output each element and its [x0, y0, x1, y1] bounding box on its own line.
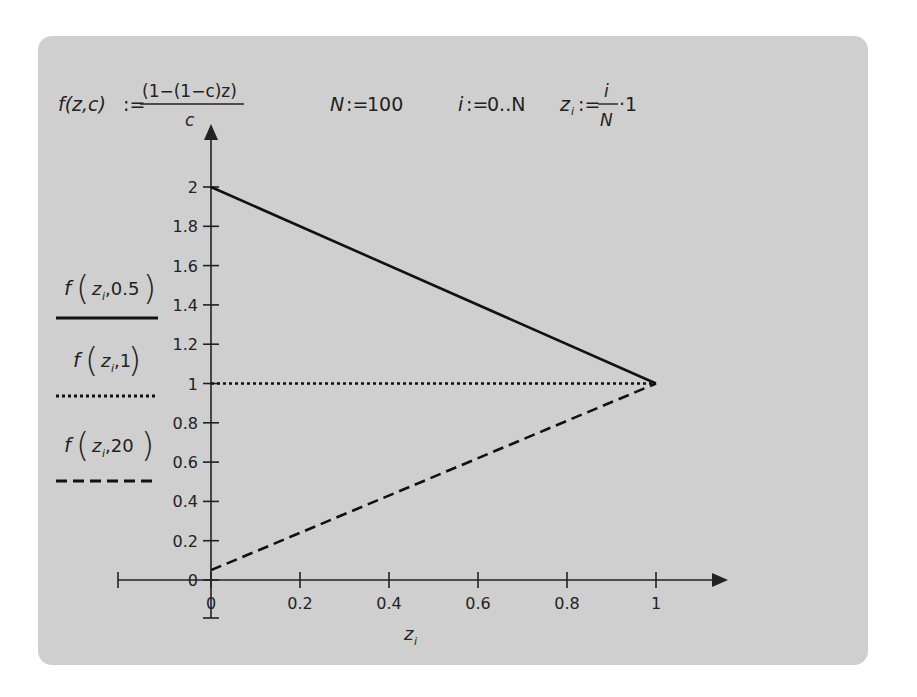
x-label-var: z: [403, 623, 414, 644]
svg-text:,20: ,20: [105, 435, 134, 456]
z-factor: ·1: [619, 93, 637, 115]
plot-canvas: f(z,c) := (1−(1−c)z) c N := 100 i := 0..…: [0, 0, 917, 697]
legend-item-c-0-5: f ( z i ,0.5 ): [56, 268, 158, 318]
function-definition: f(z,c) := (1−(1−c)z) c: [58, 81, 244, 130]
z-numerator: i: [604, 81, 609, 101]
y-axis-arrow-icon: [204, 124, 218, 140]
x-axis-label: z i: [403, 623, 417, 648]
svg-text:f: f: [64, 433, 74, 457]
function-lhs: f(z,c): [58, 93, 106, 115]
y-axis: [203, 140, 219, 618]
svg-text:z: z: [91, 278, 102, 299]
series-line-dashed: [211, 384, 656, 571]
x-label-sub: i: [414, 635, 417, 648]
function-denominator: c: [185, 110, 195, 130]
i-definition: i := 0..N: [458, 93, 525, 115]
svg-text:): ): [143, 268, 156, 308]
y-tick-label: 1.8: [173, 217, 198, 236]
x-tick-label: 0: [206, 594, 216, 613]
function-numerator: (1−(1−c)z): [142, 81, 237, 101]
y-tick-label: 0.2: [173, 532, 198, 551]
svg-text:z: z: [91, 435, 102, 456]
n-definition: N := 100: [330, 93, 403, 115]
series-layer: [211, 187, 656, 570]
z-denominator: N: [600, 110, 613, 130]
svg-text:(: (: [76, 268, 89, 308]
y-tick-label: 1.6: [173, 257, 198, 276]
svg-text:f: f: [64, 276, 74, 300]
y-tick-label: 0.8: [173, 414, 198, 433]
z-definition: z i := i N ·1: [559, 81, 637, 130]
x-tick-label: 0.8: [554, 594, 579, 613]
x-axis-arrow-icon: [712, 573, 728, 587]
z-subscript: i: [571, 105, 574, 118]
x-tick-label: 0.2: [287, 594, 312, 613]
legend-item-c-1: f ( z i ,1 ): [56, 340, 158, 396]
n-value: 100: [367, 93, 403, 115]
z-lhs: z: [559, 93, 571, 115]
svg-text:(: (: [85, 340, 98, 380]
y-tick-label: 1.4: [173, 296, 198, 315]
x-tick-label: 0.4: [376, 594, 401, 613]
y-tick-label: 1.2: [173, 335, 198, 354]
svg-text:,0.5: ,0.5: [105, 278, 139, 299]
svg-text:): ): [128, 340, 141, 380]
svg-text:): ): [141, 425, 154, 465]
svg-text:f: f: [73, 348, 83, 372]
svg-text:z: z: [100, 350, 111, 371]
x-tick-label: 0.6: [465, 594, 490, 613]
svg-text:(: (: [76, 425, 89, 465]
legend-item-c-20: f ( z i ,20 ): [56, 425, 158, 481]
i-range: 0..N: [487, 93, 525, 115]
y-tick-label: 2: [188, 178, 198, 197]
z-assign: :=: [578, 93, 600, 115]
i-lhs: i: [458, 93, 464, 115]
series-line-solid: [211, 187, 656, 384]
y-tick-label: 1: [188, 375, 198, 394]
y-tick-label: 0.4: [173, 492, 198, 511]
x-axis-ticks: 00.20.40.60.81: [206, 572, 661, 613]
y-tick-label: 0: [188, 571, 198, 590]
x-tick-label: 1: [651, 594, 661, 613]
i-assign: :=: [466, 93, 488, 115]
n-lhs: N: [330, 93, 344, 115]
n-assign: :=: [346, 93, 368, 115]
y-tick-label: 0.6: [173, 453, 198, 472]
